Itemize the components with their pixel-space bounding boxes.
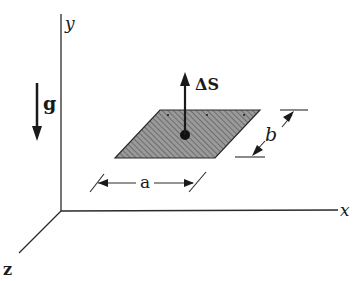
- dimension-b-bottom-arrow-icon: [252, 145, 263, 156]
- normal-vector-label: ΔS: [195, 75, 219, 94]
- z-axis: [19, 211, 61, 253]
- z-axis-label: z: [3, 260, 12, 279]
- plate-marker-dot: [243, 114, 245, 116]
- gravity-arrow-icon: [32, 126, 42, 141]
- dimension-a: a: [90, 172, 206, 192]
- dimension-a-right-arrow-icon: [184, 179, 194, 187]
- dimension-a-right-tick: [189, 172, 206, 192]
- dimension-b-top-arrow-icon: [283, 111, 294, 122]
- surface-element: [115, 110, 260, 158]
- x-axis: [61, 210, 338, 211]
- plate-marker-dot: [206, 114, 208, 116]
- gravity-label: g: [43, 92, 56, 114]
- diagram-canvas: y x z g ΔS a b: [0, 0, 354, 281]
- plate-marker-dot: [167, 114, 169, 116]
- x-axis-label: x: [340, 200, 350, 220]
- dimension-b-label: b: [265, 123, 277, 145]
- normal-arrow-icon: [180, 72, 190, 86]
- dimension-a-label: a: [140, 172, 150, 192]
- y-axis-label: y: [64, 13, 75, 33]
- gravity-vector: g: [32, 83, 56, 141]
